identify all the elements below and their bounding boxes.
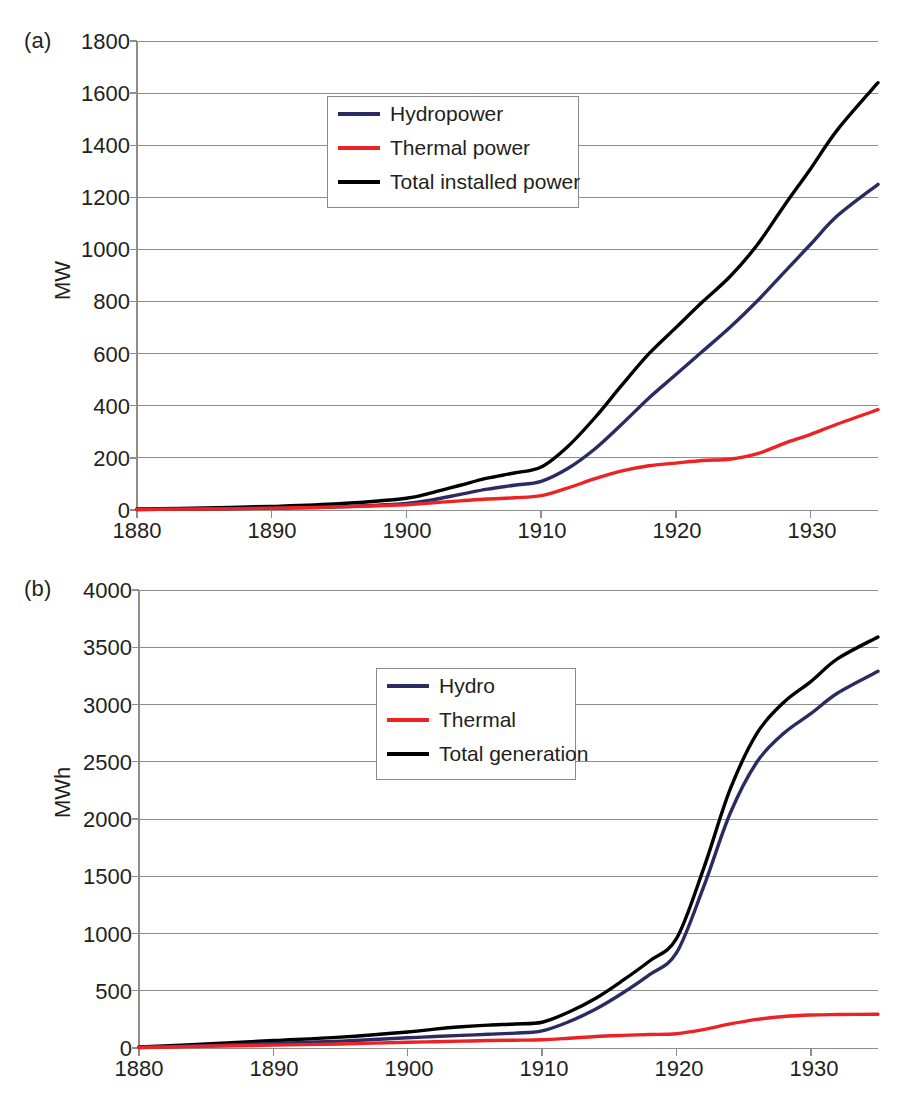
line-swatch-total-generation: [387, 752, 429, 756]
panel-a-legend-item-0[interactable]: Hydropower: [328, 97, 578, 131]
panel-a-legend-label-0: Hydropower: [390, 102, 503, 126]
panel-b-legend-item-0[interactable]: Hydro: [377, 669, 575, 703]
chart-panel-a: (a) MW 0 200 400 600 800 1000 1200 1400 …: [0, 0, 911, 560]
panel-b-legend-item-1[interactable]: Thermal: [377, 703, 575, 737]
panel-b-legend-label-1: Thermal: [439, 708, 516, 732]
panel-a-legend-label-1: Thermal power: [390, 136, 530, 160]
panel-b-legend-label-0: Hydro: [439, 674, 495, 698]
panel-a-legend: Hydropower Thermal power Total installed…: [327, 96, 579, 208]
panel-a-legend-label-2: Total installed power: [390, 170, 580, 194]
panel-b-plot-area: [0, 548, 911, 1100]
panel-b-legend: Hydro Thermal Total generation: [376, 668, 576, 780]
line-swatch-hydropower: [338, 112, 380, 116]
panel-a-legend-item-2[interactable]: Total installed power: [328, 165, 578, 199]
line-swatch-thermal-power: [338, 146, 380, 150]
panel-b-legend-item-2[interactable]: Total generation: [377, 737, 575, 771]
panel-a-plot-area: [0, 0, 911, 560]
line-swatch-hydro: [387, 684, 429, 688]
panel-b-legend-label-2: Total generation: [439, 742, 588, 766]
panel-a-legend-item-1[interactable]: Thermal power: [328, 131, 578, 165]
line-swatch-total-installed-power: [338, 180, 380, 184]
line-swatch-thermal: [387, 718, 429, 722]
chart-panel-b: (b) MWh 0 500 1000 1500 2000 2500 3000 3…: [0, 548, 911, 1100]
figure-container: (a) MW 0 200 400 600 800 1000 1200 1400 …: [0, 0, 911, 1100]
